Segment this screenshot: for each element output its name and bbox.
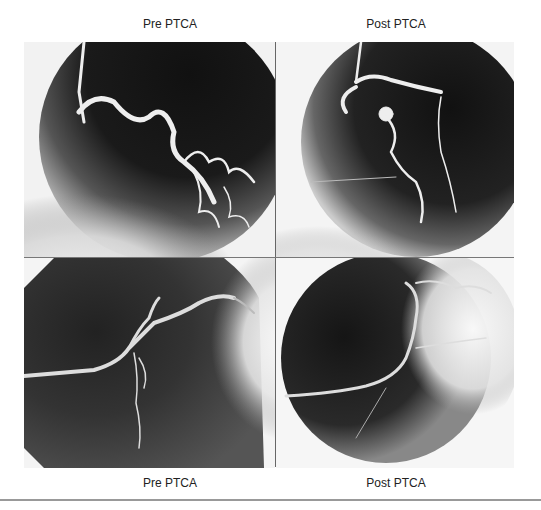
angiogram-top-left-pre-ptca bbox=[24, 42, 275, 257]
angiogram-bottom-left-pre-ptca bbox=[24, 258, 275, 468]
angiogram-top-right-post-ptca bbox=[276, 42, 514, 257]
panel-divider-vertical bbox=[275, 42, 276, 467]
page-rule bbox=[0, 499, 541, 501]
panel-label-top-left: Pre PTCA bbox=[100, 17, 240, 31]
panel-label-bottom-right: Post PTCA bbox=[326, 476, 466, 490]
panel-label-bottom-left: Pre PTCA bbox=[100, 476, 240, 490]
panel-divider-horizontal bbox=[24, 257, 514, 258]
angiogram-bottom-right-post-ptca bbox=[276, 258, 514, 468]
panel-label-top-right: Post PTCA bbox=[326, 17, 466, 31]
